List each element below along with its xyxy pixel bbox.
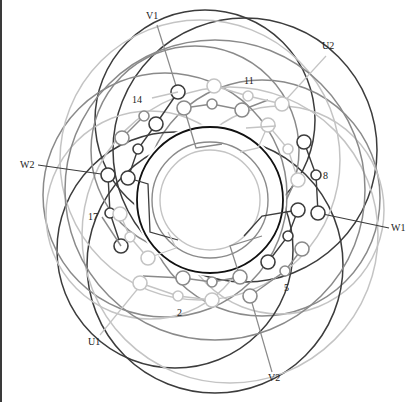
slot-node xyxy=(291,203,305,217)
slot-node xyxy=(243,91,253,101)
slot-node xyxy=(283,144,293,154)
slot-node xyxy=(311,206,325,220)
terminal-label-v1: V1 xyxy=(146,10,158,21)
slot-node xyxy=(173,291,183,301)
slot-node xyxy=(233,270,247,284)
slot-node xyxy=(115,131,129,145)
slot-node xyxy=(101,168,115,182)
terminal-label-v2: V2 xyxy=(268,372,280,383)
slot-node xyxy=(243,289,257,303)
leader-line xyxy=(250,296,272,372)
slot-node xyxy=(280,266,290,276)
inner-core-rings xyxy=(134,124,286,276)
slot-node xyxy=(207,277,217,287)
slot-node xyxy=(207,99,217,109)
slot-label-5: 5 xyxy=(284,282,289,293)
slot-node xyxy=(121,171,135,185)
terminal-label-u2: U2 xyxy=(322,40,334,51)
slot-node xyxy=(149,117,163,131)
slot-node xyxy=(205,293,219,307)
slot-node xyxy=(133,144,143,154)
slot-node xyxy=(113,207,127,221)
winding-diagram: V1 U2 W2 W1 U1 V2 14 11 8 17 5 2 xyxy=(0,0,411,402)
slot-node xyxy=(311,170,321,180)
slot-node xyxy=(291,173,305,187)
leader-line xyxy=(282,56,326,104)
slot-node xyxy=(176,271,190,285)
terminal-label-u1: U1 xyxy=(88,336,100,347)
slot-label-17: 17 xyxy=(88,211,98,222)
slot-node xyxy=(207,79,221,93)
slot-node xyxy=(261,118,275,132)
terminal-label-w2: W2 xyxy=(20,159,34,170)
slot-node xyxy=(295,242,309,256)
slot-node xyxy=(235,103,249,117)
slot-node xyxy=(261,255,275,269)
slot-node xyxy=(133,276,147,290)
diagram-canvas: V1 U2 W2 W1 U1 V2 14 11 8 17 5 2 xyxy=(0,0,411,402)
slot-label-14: 14 xyxy=(132,94,142,105)
slot-node xyxy=(283,231,293,241)
core-fill xyxy=(134,124,286,276)
slot-node xyxy=(141,251,155,265)
slot-node xyxy=(297,135,311,149)
terminal-label-w1: W1 xyxy=(391,222,405,233)
slot-label-11: 11 xyxy=(244,75,254,86)
slot-node xyxy=(139,111,149,121)
slot-label-8: 8 xyxy=(323,170,328,181)
slot-node xyxy=(125,232,135,242)
slot-node xyxy=(275,97,289,111)
slot-node xyxy=(177,101,191,115)
slot-label-2: 2 xyxy=(177,307,182,318)
leader-line xyxy=(157,25,178,92)
